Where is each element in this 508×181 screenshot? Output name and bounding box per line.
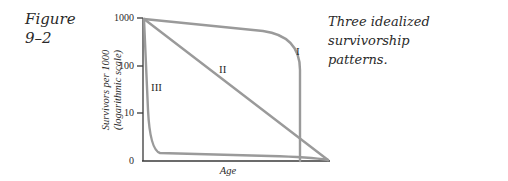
survivorship-chart: 1000 100 10 0 Survivors per 1000 (logari… (0, 0, 508, 181)
y-axis-title: Survivors per 1000 (logarithmic scale) (100, 49, 124, 130)
curve-label-III: III (151, 81, 162, 93)
curves (144, 19, 328, 161)
y-tick-label-0: 0 (129, 155, 134, 166)
x-axis-title: Age (219, 165, 237, 176)
y-tick-label-10: 10 (124, 107, 134, 118)
curve-label-II: II (219, 63, 227, 75)
y-tick-label-1000: 1000 (114, 12, 134, 23)
curve-I (144, 19, 300, 161)
curve-label-I: I (296, 45, 300, 57)
y-axis-title-line-1: Survivors per 1000 (100, 49, 111, 130)
y-axis-title-line-2: (logarithmic scale) (112, 49, 124, 130)
